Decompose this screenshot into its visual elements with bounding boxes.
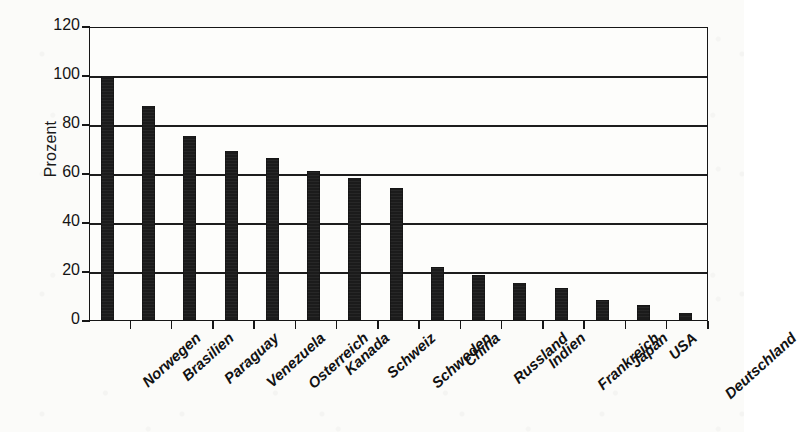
x-axis-tick-mark [130, 321, 132, 329]
bar [513, 283, 526, 320]
bar [101, 76, 114, 320]
x-axis-tick-mark [336, 321, 338, 329]
bar [390, 188, 403, 320]
bar [142, 106, 155, 320]
x-axis-tick-mark [295, 321, 297, 329]
y-axis-tick-label: 20 [28, 261, 80, 279]
y-axis-tick-label: 80 [28, 114, 80, 132]
x-axis-tick-mark [542, 321, 544, 329]
y-axis-title: Prozent [42, 89, 60, 209]
y-axis-tick-label: 120 [28, 16, 80, 34]
y-axis-tick-label: 40 [28, 212, 80, 230]
x-axis-tick-label: USA [665, 329, 700, 363]
x-axis-tick-mark [666, 321, 668, 329]
x-axis-tick-label: Deutschland [721, 329, 799, 402]
bar [348, 178, 361, 320]
x-axis-tick-mark [377, 321, 379, 329]
bar [472, 275, 485, 320]
x-axis-tick-mark [212, 321, 214, 329]
bar [266, 158, 279, 320]
x-axis-tick-mark [625, 321, 627, 329]
bar [183, 136, 196, 320]
bar [555, 288, 568, 320]
bar [431, 267, 444, 320]
bar [596, 300, 609, 320]
x-axis-tick-mark [707, 321, 709, 329]
bar [679, 313, 692, 320]
x-axis-tick-label: Schweiz [383, 329, 438, 381]
y-axis-tick-label: 0 [28, 310, 80, 328]
x-axis-tick-mark [460, 321, 462, 329]
bar [225, 151, 238, 320]
bar [307, 171, 320, 320]
gridline [90, 125, 707, 127]
y-axis-tick-label: 100 [28, 65, 80, 83]
y-axis-tick-label: 60 [28, 163, 80, 181]
plot-area [89, 27, 708, 321]
x-axis-tick-mark [171, 321, 173, 329]
bar [637, 305, 650, 320]
x-axis-tick-mark [418, 321, 420, 329]
x-axis-tick-mark [501, 321, 503, 329]
x-axis-tick-mark [583, 321, 585, 329]
x-axis-tick-mark [253, 321, 255, 329]
gridline [90, 76, 707, 78]
